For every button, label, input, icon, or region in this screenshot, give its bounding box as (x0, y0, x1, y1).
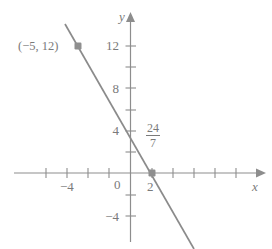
x-axis-arrow-icon (256, 169, 266, 178)
y-tick-label-4: 4 (97, 124, 119, 137)
fraction-numerator: 24 (146, 122, 160, 136)
data-point-marker-2-0 (149, 170, 156, 177)
x-axis-name: x (252, 180, 258, 193)
graph-figure: 12 8 4 −4 −4 0 2 y x (−5, 12) 24 7 (0, 0, 272, 249)
x-tick-label-2: 2 (147, 180, 154, 193)
coordinate-plane-svg (0, 0, 272, 249)
y-tick-label-12: 12 (97, 39, 119, 52)
fraction-denominator: 7 (146, 136, 160, 149)
y-intercept-fraction-label: 24 7 (146, 122, 160, 149)
data-point-marker-minus5-12 (75, 43, 82, 50)
y-axis-arrow-icon (126, 12, 135, 22)
y-tick-label-8: 8 (97, 82, 119, 95)
point-coordinate-label: (−5, 12) (18, 40, 58, 53)
y-axis-name: y (119, 10, 125, 23)
x-tick-label-minus-4: −4 (60, 180, 74, 193)
y-tick-label-minus-4: −4 (97, 210, 119, 223)
x-tick-label-0: 0 (114, 178, 121, 191)
plotted-line (65, 24, 194, 249)
